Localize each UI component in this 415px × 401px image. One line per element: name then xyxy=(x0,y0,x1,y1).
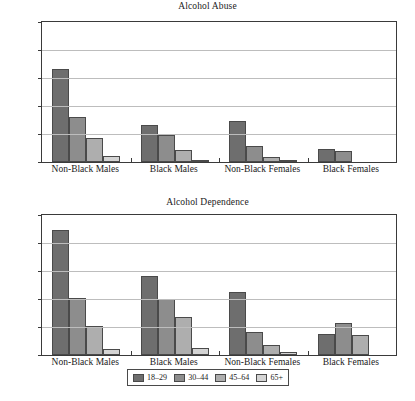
x-axis-category-label: Non-Black Females xyxy=(224,357,300,368)
bar-group xyxy=(219,215,308,355)
y-axis-tick-mark xyxy=(38,162,42,163)
chart-title-alcohol-dependence: Alcohol Dependence xyxy=(0,196,415,208)
y-axis-tick-mark xyxy=(38,106,42,107)
x-axis-category-label: Non-Black Males xyxy=(52,357,119,368)
legend-swatch xyxy=(215,374,226,382)
bar xyxy=(335,151,352,162)
bar-group xyxy=(42,22,131,162)
x-axis-category-label: Non-Black Males xyxy=(52,164,119,175)
bar-group xyxy=(42,215,131,355)
legend-label: 18–29 xyxy=(147,374,167,382)
bars-alcohol-dependence xyxy=(42,215,396,355)
gridline xyxy=(42,327,396,328)
bar xyxy=(229,121,246,162)
x-axis-tick-mark xyxy=(131,351,132,355)
bar xyxy=(192,160,209,162)
gridline xyxy=(42,134,396,135)
legend-swatch xyxy=(256,374,267,382)
bar xyxy=(86,326,103,355)
bar-group xyxy=(308,215,397,355)
y-axis-tick-mark xyxy=(38,271,42,272)
bar xyxy=(263,345,280,355)
legend-label: 65+ xyxy=(270,374,283,382)
x-axis-tick-mark xyxy=(219,351,220,355)
bar xyxy=(229,292,246,355)
bar xyxy=(192,348,209,355)
x-axis-category-label: Non-Black Females xyxy=(224,164,300,175)
legend-swatch xyxy=(174,374,185,382)
alcohol-use-figure: Alcohol Abuse 03691215Non-Black MalesBla… xyxy=(0,0,415,401)
y-axis-tick-mark xyxy=(38,134,42,135)
legend-item: 30–44 xyxy=(174,374,208,382)
gridline xyxy=(42,299,396,300)
legend-label: 45–64 xyxy=(229,374,249,382)
bar xyxy=(246,146,263,162)
gridline xyxy=(42,106,396,107)
gridline xyxy=(42,243,396,244)
bar xyxy=(141,276,158,355)
bar xyxy=(52,69,69,162)
bar xyxy=(246,332,263,355)
legend-label: 30–44 xyxy=(188,374,208,382)
legend-item: 18–29 xyxy=(133,374,167,382)
bar-group xyxy=(308,22,397,162)
bar xyxy=(263,157,280,162)
chart-legend: 18–2930–4445–6465+ xyxy=(127,369,289,386)
x-axis-tick-mark xyxy=(219,158,220,162)
bar-group xyxy=(131,215,220,355)
x-axis-category-label: Black Females xyxy=(323,164,379,175)
bar xyxy=(335,323,352,355)
bar xyxy=(52,230,69,355)
bar xyxy=(280,352,297,355)
plot-area-alcohol-abuse xyxy=(41,21,397,163)
bar xyxy=(141,125,158,162)
bar xyxy=(352,335,369,355)
legend-item: 45–64 xyxy=(215,374,249,382)
bar xyxy=(318,149,335,162)
plot-area-alcohol-dependence xyxy=(41,214,397,356)
legend-swatch xyxy=(133,374,144,382)
legend-item: 65+ xyxy=(256,374,283,382)
y-axis-tick-mark xyxy=(38,355,42,356)
y-axis-tick-mark xyxy=(38,50,42,51)
bar xyxy=(175,150,192,162)
bar xyxy=(280,160,297,162)
bar xyxy=(103,156,120,162)
bar xyxy=(318,334,335,355)
bar xyxy=(175,317,192,355)
y-axis-tick-mark xyxy=(38,78,42,79)
bar-group xyxy=(219,22,308,162)
y-axis-tick-mark xyxy=(38,22,42,23)
chart-panel-alcohol-dependence: Alcohol Dependence 03691215Non-Black Mal… xyxy=(0,196,415,364)
x-axis-category-label: Black Males xyxy=(150,357,198,368)
y-axis-tick-mark xyxy=(38,299,42,300)
chart-panel-alcohol-abuse: Alcohol Abuse 03691215Non-Black MalesBla… xyxy=(0,0,415,196)
x-axis-tick-mark xyxy=(308,351,309,355)
gridline xyxy=(42,78,396,79)
chart-title-alcohol-abuse: Alcohol Abuse xyxy=(0,0,415,12)
x-axis-category-label: Black Males xyxy=(150,164,198,175)
gridline xyxy=(42,50,396,51)
bar xyxy=(86,138,103,162)
bar xyxy=(69,117,86,162)
bars-alcohol-abuse xyxy=(42,22,396,162)
bar xyxy=(103,349,120,355)
x-axis-category-label: Black Females xyxy=(323,357,379,368)
y-axis-tick-mark xyxy=(38,215,42,216)
bar xyxy=(158,135,175,162)
y-axis-tick-mark xyxy=(38,327,42,328)
x-axis-tick-mark xyxy=(131,158,132,162)
gridline xyxy=(42,271,396,272)
bar-group xyxy=(131,22,220,162)
y-axis-tick-mark xyxy=(38,243,42,244)
x-axis-tick-mark xyxy=(308,158,309,162)
